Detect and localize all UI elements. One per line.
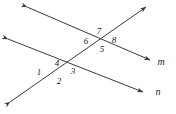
line-label-m: m [157, 57, 164, 67]
angle-label-2: 2 [57, 77, 62, 86]
geometry-figure: 1 2 3 4 5 6 7 8 m n [0, 0, 176, 114]
transversal-line [10, 7, 146, 102]
figure-canvas [0, 0, 176, 114]
angle-label-6: 6 [84, 37, 89, 46]
angle-label-3: 3 [71, 67, 76, 76]
angle-label-4: 4 [55, 59, 60, 68]
angle-label-7: 7 [97, 27, 102, 36]
angle-label-1: 1 [37, 68, 42, 77]
line-m [27, 7, 150, 60]
line-label-n: n [156, 87, 161, 97]
angle-label-5: 5 [100, 45, 105, 54]
angle-label-8: 8 [112, 36, 117, 45]
lines-group [8, 7, 150, 102]
